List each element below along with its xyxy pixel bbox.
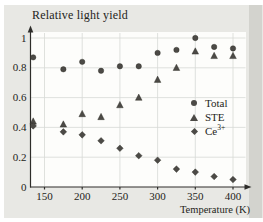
legend-label: STE	[205, 112, 225, 123]
svg-text:350: 350	[187, 190, 204, 202]
svg-text:250: 250	[112, 190, 129, 202]
data-point	[30, 55, 35, 60]
svg-text:1: 1	[21, 32, 27, 44]
x-axis-arrow-icon	[245, 184, 252, 189]
diamond-marker-icon	[188, 129, 200, 134]
svg-text:400: 400	[225, 190, 242, 202]
legend-label: Ce3+	[205, 126, 225, 137]
x-tick-labels: 150200250300350400	[36, 190, 242, 202]
data-point	[211, 44, 216, 49]
svg-text:0: 0	[21, 181, 27, 193]
data-point	[136, 64, 141, 69]
legend: Total STE Ce3+	[188, 96, 227, 138]
legend-item-ce3: Ce3+	[188, 124, 227, 138]
data-point	[193, 35, 198, 40]
svg-text:0.4: 0.4	[13, 121, 27, 133]
y-axis-arrow-icon	[28, 26, 34, 33]
circle-marker-icon	[188, 100, 200, 106]
data-point	[174, 47, 179, 52]
svg-text:300: 300	[149, 190, 166, 202]
svg-text:0.6: 0.6	[13, 91, 27, 103]
data-point	[98, 68, 103, 73]
data-point	[117, 64, 122, 69]
legend-label: Total	[205, 98, 227, 109]
svg-text:0.8: 0.8	[13, 61, 27, 73]
legend-item-total: Total	[188, 96, 227, 110]
data-point	[80, 59, 85, 64]
triangle-marker-icon	[188, 114, 200, 121]
y-tick-labels: 00.20.40.60.81	[13, 32, 27, 193]
svg-text:0.2: 0.2	[13, 151, 27, 163]
figure-canvas: Relative light yield 00.20.40.60.8115020…	[0, 0, 263, 222]
svg-text:150: 150	[36, 190, 53, 202]
data-point	[230, 46, 235, 51]
data-point	[155, 50, 160, 55]
x-axis-title: Temperature (K)	[140, 204, 250, 215]
svg-text:200: 200	[74, 190, 91, 202]
data-point	[61, 67, 66, 72]
